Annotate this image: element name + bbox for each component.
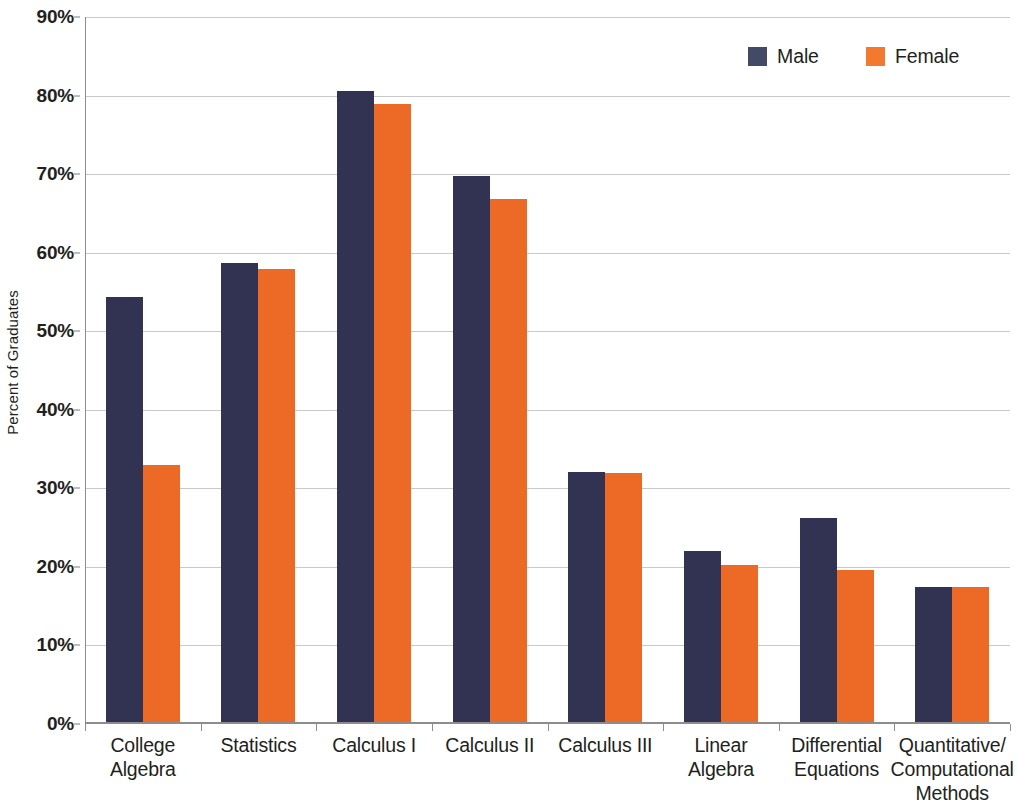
y-axis-tick-label: 40%	[37, 399, 74, 421]
y-axis-tick-label: 0%	[47, 713, 74, 735]
legend: MaleFemale	[748, 45, 959, 68]
bar-group	[85, 17, 201, 724]
bar-group	[663, 17, 779, 724]
bar-female	[143, 465, 180, 724]
bar-group	[432, 17, 548, 724]
x-axis-tick-marks	[85, 724, 1010, 731]
bar-group	[548, 17, 664, 724]
legend-swatch-icon	[748, 47, 767, 66]
legend-swatch-icon	[866, 47, 885, 66]
bar-male	[221, 263, 258, 724]
x-axis-tick-mark	[779, 724, 780, 731]
y-axis-tick-labels: 0%10%20%30%40%50%60%70%80%90%	[22, 0, 80, 740]
y-axis-title: Percent of Graduates	[0, 0, 24, 724]
bar-male	[453, 176, 490, 724]
x-axis-tick-mark	[316, 724, 317, 731]
y-axis-tick-mark	[74, 331, 80, 332]
y-axis-tick-mark	[74, 724, 80, 725]
legend-label: Female	[895, 45, 959, 68]
bar-female	[721, 565, 758, 724]
y-axis-tick-label: 60%	[37, 242, 74, 264]
x-axis-tick-labels: CollegeAlgebraStatisticsCalculus ICalcul…	[85, 733, 1010, 806]
y-axis-tick-mark	[74, 252, 80, 253]
bar-group	[779, 17, 895, 724]
x-axis-tick-label-line: Methods	[884, 781, 1018, 805]
bar-female	[490, 199, 527, 724]
bar-male	[106, 297, 143, 724]
legend-item-male[interactable]: Male	[748, 45, 819, 68]
bar-female	[374, 104, 411, 724]
bar-female	[952, 587, 989, 724]
x-axis-tick-label-line: Algebra	[75, 757, 211, 781]
bars-layer	[85, 17, 1010, 724]
x-axis-tick-label: Quantitative/ComputationalMethods	[884, 733, 1018, 805]
legend-label: Male	[777, 45, 819, 68]
y-axis-tick-label: 90%	[37, 6, 74, 28]
y-axis-title-text: Percent of Graduates	[4, 290, 21, 435]
y-axis-tick-label: 30%	[37, 477, 74, 499]
bar-male	[800, 518, 837, 724]
y-axis-tick-label: 20%	[37, 556, 74, 578]
y-axis-tick-mark	[74, 95, 80, 96]
plot-area	[85, 17, 1010, 724]
bar-male	[684, 551, 721, 724]
y-axis-tick-label: 70%	[37, 163, 74, 185]
bar-group	[894, 17, 1010, 724]
x-axis-tick-mark	[85, 724, 86, 731]
bar-male	[337, 91, 374, 724]
y-axis-tick-mark	[74, 645, 80, 646]
bar-male	[915, 587, 952, 724]
bar-group	[316, 17, 432, 724]
y-axis-tick-mark	[74, 566, 80, 567]
x-axis-tick-label-line: Quantitative/	[884, 733, 1018, 757]
x-axis-tick-mark	[894, 724, 895, 731]
bar-group	[201, 17, 317, 724]
x-axis-tick-mark	[1010, 724, 1011, 731]
x-axis-tick-label-line: Computational	[884, 757, 1018, 781]
y-axis-tick-label: 10%	[37, 634, 74, 656]
y-axis-tick-mark	[74, 17, 80, 18]
y-axis-tick-label: 80%	[37, 85, 74, 107]
y-axis-tick-mark	[74, 409, 80, 410]
y-axis-tick-mark	[74, 488, 80, 489]
bar-male	[568, 472, 605, 724]
x-axis-tick-mark	[201, 724, 202, 731]
x-axis-tick-mark	[663, 724, 664, 731]
y-axis-tick-label: 50%	[37, 320, 74, 342]
x-axis-tick-mark	[548, 724, 549, 731]
legend-item-female[interactable]: Female	[866, 45, 959, 68]
bar-female	[837, 570, 874, 724]
bar-female	[258, 269, 295, 724]
bar-female	[605, 473, 642, 724]
x-axis-tick-mark	[432, 724, 433, 731]
y-axis-tick-mark	[74, 174, 80, 175]
